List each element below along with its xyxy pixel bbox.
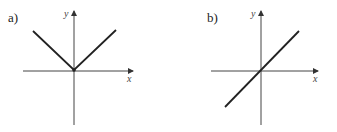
panel-b: b) y x <box>207 8 318 125</box>
x-axis-label: x <box>126 73 132 84</box>
panel-a-label: a) <box>8 10 18 25</box>
origin-point <box>72 68 76 72</box>
panel-b-label: b) <box>207 10 218 25</box>
panel-a: a) y x <box>8 8 133 125</box>
x-axis-label: x <box>312 73 318 84</box>
linear-line <box>225 31 299 107</box>
graphs-figure: a) y x b) y x <box>0 0 337 132</box>
y-axis-label: y <box>250 8 256 19</box>
y-axis-label: y <box>63 8 69 19</box>
